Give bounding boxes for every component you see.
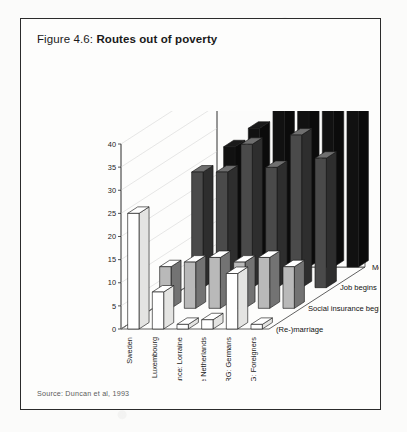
y-tick-label: 30 [108, 186, 116, 195]
category-label: FRG: Germans [224, 337, 233, 381]
figure-number: Figure 4.6: [37, 33, 93, 45]
y-tick-label: 40 [108, 140, 116, 149]
chart-svg: 0510152025303540% poor affectedSwedenLux… [79, 111, 379, 381]
bar [128, 207, 149, 329]
series-label: More work [372, 263, 379, 272]
chart-3d-bar: 0510152025303540% poor affectedSwedenLux… [79, 111, 379, 381]
figure-title: Figure 4.6: Routes out of poverty [37, 33, 217, 45]
bar [184, 256, 205, 309]
y-tick-label: 15 [108, 255, 116, 264]
figure-title-text: Routes out of poverty [96, 33, 217, 45]
series-label: Social insurance begins [308, 304, 379, 313]
y-tick-label: 35 [108, 163, 116, 172]
bar [315, 152, 336, 288]
series-label: Job begins [340, 283, 377, 292]
figure-source: Source: Duncan et al, 1993 [37, 389, 129, 398]
page-background: Figure 4.6: Routes out of poverty 051015… [0, 0, 407, 432]
figure-card: Figure 4.6: Routes out of poverty 051015… [20, 18, 381, 410]
y-tick-label: 20 [108, 232, 116, 241]
bar [258, 251, 279, 308]
category-label: Sweden [125, 337, 134, 364]
bar [283, 260, 304, 308]
category-label: The Netherlands [199, 337, 208, 381]
y-tick-label: 25 [108, 209, 116, 218]
bar [347, 111, 368, 267]
y-tick-label: 5 [112, 302, 116, 311]
y-tick-label: 10 [108, 278, 116, 287]
category-label: France: Lorraine [175, 337, 184, 381]
category-label: FRG: Foreigners [249, 337, 258, 381]
series-label: (Re-)marriage [276, 325, 323, 334]
bar [226, 267, 247, 329]
y-tick-label: 0 [112, 325, 116, 334]
bar [152, 286, 173, 329]
category-label: Luxembourg [150, 337, 159, 378]
